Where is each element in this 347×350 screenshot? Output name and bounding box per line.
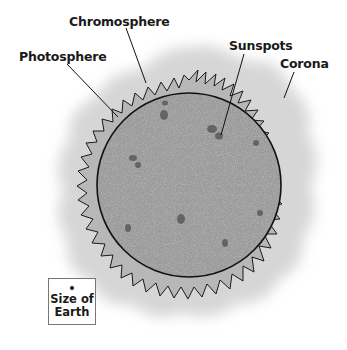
earth-scale-label: Size of Earth <box>49 293 95 319</box>
chromosphere-label: Chromosphere <box>69 14 169 29</box>
photosphere-label: Photosphere <box>19 49 106 64</box>
photosphere <box>97 93 281 277</box>
corona-label: Corona <box>280 56 329 71</box>
sunspots-label: Sunspots <box>229 38 293 53</box>
earth-dot-icon <box>70 286 74 290</box>
earth-scale-box: Size of Earth <box>48 278 96 325</box>
